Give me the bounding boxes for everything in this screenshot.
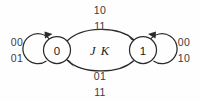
state-node-0[interactable]: 0 [44,37,71,64]
state-node-0-label: 0 [54,45,60,57]
self-loop-state-1-label-line-2: 10 [178,52,190,64]
state-node-1[interactable]: 1 [130,37,157,64]
transition-0-to-1-label-line-1: 10 [94,4,106,16]
transition-1-to-0-label-line-1: 01 [94,70,106,82]
self-loop-state-1-label-line-1: 00 [178,36,190,48]
transition-1-to-0-label-line-2: 11 [94,86,106,98]
state-diagram-container: 0 1 J K 00 01 10 11 01 11 00 10 [0,0,201,101]
state-node-1-label: 1 [140,45,146,57]
transition-1-to-0 [65,58,135,71]
self-loop-state-0-label-line-1: 00 [11,36,23,48]
input-variables-label: J K [90,44,110,58]
state-diagram-canvas: 0 1 J K 00 01 10 11 01 11 00 10 [0,0,201,101]
transition-0-to-1-label-line-2: 11 [94,20,106,32]
self-loop-state-0-label-line-2: 01 [11,52,23,64]
